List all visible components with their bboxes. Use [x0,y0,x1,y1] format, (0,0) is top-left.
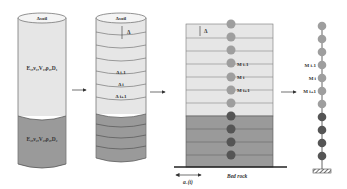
bedrock-label: Bed rock [226,173,248,179]
panel4-mass-label-im1: M i-1 [304,63,316,68]
fixed-support-icon [313,169,331,173]
panel3-mass-label-im1: M i-1 [237,62,249,67]
panel4-mass-label-ip1: M i+1 [303,89,316,94]
panel2-top-label: Δsoil [116,16,127,21]
panel3-mass-label-i: M i [237,75,245,80]
diagram-canvas: Δsoil E₁,ν₁,V₁,ρ₁,D₁ E₂,ν₂,V₂,ρ₂,D₂ Δsoi… [0,0,347,189]
sublayer-label-im1: Δ i-1 [116,70,126,75]
sublayer-label-ip1: Δ i+1 [116,94,127,99]
sublayer-label-i: Δ i [118,82,124,87]
panel2-thickness-label: Δ [127,29,131,35]
lumped-mass-model [313,22,331,173]
upper-layer-label: E₁,ν₁,V₁,ρ₁,D₁ [27,65,58,71]
soil-cylinder-discretized [96,13,146,162]
excitation-label: aₓ(t) [183,179,193,186]
panel4-mass-label-i: M i [309,76,317,81]
soil-cylinder-continuous [18,13,66,168]
panel1-top-label: Δsoil [37,16,48,21]
lower-layer-label: E₂,ν₂,V₂,ρ₂,D₂ [27,136,58,142]
panel3-mass-label-ip1: M i+1 [237,88,250,93]
panel3-thickness-label: Δ [204,28,208,34]
